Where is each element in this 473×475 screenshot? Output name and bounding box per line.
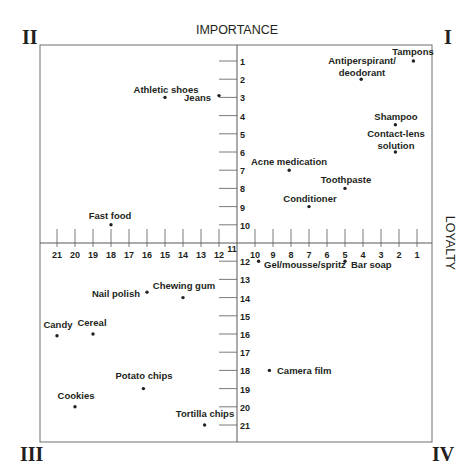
loyalty-axis-title: LOYALTY xyxy=(443,216,457,271)
loyalty-tick-label: 15 xyxy=(160,250,170,260)
importance-tick-label: 2 xyxy=(240,75,245,85)
data-point xyxy=(217,94,220,97)
quadrant-label-iv: IV xyxy=(432,443,455,465)
data-point-label: Bar soap xyxy=(351,259,392,270)
loyalty-tick-label: 18 xyxy=(106,250,116,260)
data-point-label: Fast food xyxy=(89,210,132,221)
importance-tick-label: 15 xyxy=(240,312,250,322)
loyalty-tick-label: 12 xyxy=(214,250,224,260)
importance-tick-label: 4 xyxy=(240,112,245,122)
importance-tick-label: 7 xyxy=(240,166,245,176)
loyalty-tick-label: 21 xyxy=(52,250,62,260)
loyalty-tick-label: 17 xyxy=(124,250,134,260)
loyalty-tick-label: 14 xyxy=(178,250,188,260)
importance-tick-label: 19 xyxy=(240,385,250,395)
loyalty-tick-label: 1 xyxy=(414,250,419,260)
importance-tick-label: 17 xyxy=(240,348,250,358)
data-point xyxy=(343,187,346,190)
data-point xyxy=(394,123,397,126)
quadrant-label-i: I xyxy=(444,26,452,48)
importance-tick-label: 18 xyxy=(240,366,250,376)
quadrant-label-iii: III xyxy=(20,443,44,465)
importance-tick-label: 12 xyxy=(240,257,250,267)
data-point xyxy=(288,169,291,172)
importance-tick-label: 5 xyxy=(240,130,245,140)
data-point xyxy=(145,290,148,293)
importance-tick-label: 14 xyxy=(240,294,250,304)
loyalty-tick-label: 2 xyxy=(396,250,401,260)
data-point-label: Conditioner xyxy=(283,193,337,204)
importance-tick-label: 16 xyxy=(240,330,250,340)
importance-tick-label: 1 xyxy=(240,57,245,67)
data-point xyxy=(55,334,58,337)
importance-tick-label: 9 xyxy=(240,203,245,213)
data-point-label: Gel/mousse/spritz xyxy=(264,259,346,270)
loyalty-tick-label: 13 xyxy=(196,250,206,260)
data-point-label: Potato chips xyxy=(115,370,172,381)
data-point-labels: TamponsAntiperspirant/deodorantShampooCo… xyxy=(43,46,433,419)
axis-titles: IMPORTANCE LOYALTY xyxy=(196,23,457,271)
center-tick-label: 11 xyxy=(227,244,237,254)
data-point xyxy=(257,260,260,263)
data-point-label: Chewing gum xyxy=(153,280,215,291)
loyalty-tick-label: 20 xyxy=(70,250,80,260)
data-point xyxy=(142,387,145,390)
loyalty-tick-label: 19 xyxy=(88,250,98,260)
data-point-label: Contact-lenssolution xyxy=(367,128,425,151)
data-point-label: Acne medication xyxy=(251,156,327,167)
data-point-label: Toothpaste xyxy=(321,174,372,185)
data-point xyxy=(73,405,76,408)
data-point-label: Shampoo xyxy=(374,111,417,122)
data-point xyxy=(360,78,363,81)
data-point xyxy=(163,96,166,99)
importance-tick-label: 20 xyxy=(240,403,250,413)
data-point-label: Tortilla chips xyxy=(176,408,234,419)
data-point xyxy=(203,423,206,426)
importance-tick-label: 8 xyxy=(240,184,245,194)
importance-tick-label: 3 xyxy=(240,93,245,103)
importance-tick-label: 10 xyxy=(240,221,250,231)
data-point xyxy=(91,332,94,335)
data-point xyxy=(181,296,184,299)
loyalty-tick-label: 10 xyxy=(250,250,260,260)
quadrant-label-ii: II xyxy=(22,26,38,48)
loyalty-tick-label: 16 xyxy=(142,250,152,260)
data-point-label: Jeans xyxy=(184,92,211,103)
data-point-label: Nail polish xyxy=(92,288,140,299)
data-point xyxy=(268,369,271,372)
data-point-label: Cereal xyxy=(77,317,106,328)
importance-tick-label: 6 xyxy=(240,148,245,158)
importance-tick-label: 21 xyxy=(240,421,250,431)
data-point xyxy=(109,223,112,226)
perceptual-map-chart: 1234567891012131415161718192021109876543… xyxy=(0,0,473,475)
importance-axis-title: IMPORTANCE xyxy=(196,23,278,37)
data-point-label: Camera film xyxy=(277,365,331,376)
data-point-label: Tampons xyxy=(392,46,434,57)
importance-tick-label: 13 xyxy=(240,275,250,285)
axis-ticks: 1234567891012131415161718192021109876543… xyxy=(52,57,420,431)
data-point-label: Candy xyxy=(43,319,73,330)
data-point-label: Cookies xyxy=(58,390,95,401)
data-point-label: Antiperspirant/deodorant xyxy=(328,55,396,78)
data-point xyxy=(307,205,310,208)
data-point xyxy=(412,59,415,62)
